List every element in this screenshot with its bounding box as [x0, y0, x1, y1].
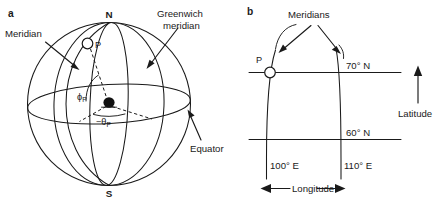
point-p-marker-b: [265, 67, 276, 78]
longitude-110e-label: 110° E: [344, 160, 372, 171]
meridian-callout: Meridian: [5, 28, 80, 70]
longitude-axis-label: Longitude: [292, 183, 334, 194]
phi-subscript: P: [82, 96, 87, 103]
meridian-line-110e: [336, 49, 341, 180]
panel-b: b P: [247, 6, 432, 194]
greenwich-label-line1: Greenwich: [157, 8, 203, 19]
latitude-70n-label: 70° N: [346, 60, 370, 71]
equator-callout: Equator: [188, 110, 225, 155]
meridians-callout: Meridians: [276, 9, 344, 59]
theta-symbol: −θ: [96, 117, 106, 127]
meridians-label: Meridians: [288, 9, 330, 20]
theta-angle-label: −θP: [96, 117, 111, 128]
longitude-100e-label: 100° E: [270, 160, 299, 171]
meridians-leader-right: [318, 26, 336, 49]
svg-text:ϕP: ϕP: [77, 92, 87, 103]
phi-angle-label: ϕP: [77, 92, 87, 103]
greenwich-meridian-callout: Greenwich meridian: [147, 8, 203, 69]
south-pole-label: S: [106, 188, 113, 199]
equator-label: Equator: [190, 143, 224, 154]
panel-b-label: b: [247, 6, 253, 17]
greenwich-label-line2: meridian: [163, 20, 200, 31]
longitude-leg-right-dashed: [112, 107, 152, 120]
latitude-axis-label: Latitude: [398, 108, 432, 119]
svg-text:−θP: −θP: [96, 117, 111, 128]
longitude-axis-arrow: Longitude: [261, 183, 346, 194]
panel-a: a: [5, 8, 224, 199]
north-pole-label: N: [105, 9, 112, 20]
point-p-marker: [82, 38, 93, 49]
figure-canvas: a: [0, 0, 447, 202]
point-p-label: P: [95, 40, 101, 50]
panel-a-label: a: [8, 8, 14, 19]
latitude-60n-label: 60° N: [346, 127, 370, 138]
latitude-axis-arrow: Latitude: [398, 66, 432, 120]
point-p-label-b: P: [256, 55, 262, 65]
sphere-centre-marker: [102, 97, 117, 107]
meridian-label: Meridian: [5, 28, 42, 39]
radius-to-p-dashed: [91, 49, 108, 99]
theta-subscript: P: [106, 121, 111, 128]
phi-angle-arc: [86, 75, 99, 101]
